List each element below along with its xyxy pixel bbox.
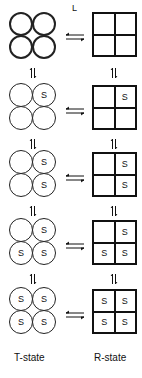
r-subunit-square: S xyxy=(115,312,136,333)
r-subunit-square xyxy=(94,175,115,196)
r-subunit-square: S xyxy=(115,175,136,196)
t-state-tetramer: SS xyxy=(9,150,57,198)
t-subunit-circle xyxy=(32,12,56,36)
r-subunit-square xyxy=(94,87,115,108)
t-subunit-circle: S xyxy=(9,310,33,334)
r-subunit-square xyxy=(115,108,136,129)
t-state-label: T-state xyxy=(14,352,45,363)
t-subunit-circle: S xyxy=(32,83,56,107)
r-subunit-square: S xyxy=(115,243,136,264)
t-state-tetramer: S xyxy=(9,83,57,131)
t-subunit-circle: S xyxy=(9,241,33,265)
r-state-tetramer: SS xyxy=(92,152,137,197)
r-subunit-square xyxy=(94,108,115,129)
r-subunit-square: S xyxy=(115,87,136,108)
vertical-equilibrium-arrows-icon xyxy=(110,136,118,148)
t-subunit-circle xyxy=(9,173,33,197)
equilibrium-row: SSSSSS xyxy=(0,218,142,268)
r-subunit-square: S xyxy=(115,291,136,312)
r-subunit-square xyxy=(94,14,115,35)
equilibrium-arrows-icon xyxy=(64,306,86,316)
equilibrium-row: SS xyxy=(0,83,142,133)
t-subunit-circle xyxy=(9,106,33,130)
r-subunit-square: S xyxy=(115,222,136,243)
t-subunit-circle: S xyxy=(32,173,56,197)
r-state-tetramer: S xyxy=(92,85,137,130)
vertical-equilibrium-arrows-icon xyxy=(29,271,37,283)
r-subunit-square xyxy=(115,35,136,56)
vertical-equilibrium-arrows-icon xyxy=(29,65,37,77)
equilibrium-row: SSSSSSSS xyxy=(0,287,142,337)
r-subunit-square xyxy=(94,154,115,175)
r-subunit-square: S xyxy=(94,291,115,312)
t-subunit-circle xyxy=(9,35,33,59)
equilibrium-row: SSSS xyxy=(0,150,142,200)
equilibrium-arrows-icon xyxy=(64,28,86,38)
t-subunit-circle xyxy=(9,12,33,36)
t-subunit-circle xyxy=(9,218,33,242)
r-subunit-square: S xyxy=(94,312,115,333)
vertical-equilibrium-arrows-icon xyxy=(110,271,118,283)
vertical-equilibrium-arrows-icon xyxy=(110,65,118,77)
r-subunit-square: S xyxy=(115,154,136,175)
r-state-tetramer: SSSS xyxy=(92,289,137,334)
equilibrium-arrows-icon xyxy=(64,169,86,179)
t-subunit-circle: S xyxy=(32,241,56,265)
vertical-equilibrium-arrows-icon xyxy=(29,136,37,148)
r-subunit-square xyxy=(115,14,136,35)
r-state-tetramer xyxy=(92,12,137,57)
vertical-equilibrium-arrows-icon xyxy=(110,203,118,215)
t-state-tetramer: SSSS xyxy=(9,287,57,335)
t-subunit-circle: S xyxy=(9,287,33,311)
equilibrium-arrows-icon xyxy=(64,102,86,112)
ligand-label: L xyxy=(72,3,77,13)
r-subunit-square xyxy=(94,35,115,56)
t-subunit-circle: S xyxy=(32,287,56,311)
r-subunit-square xyxy=(94,222,115,243)
vertical-equilibrium-arrows-icon xyxy=(29,203,37,215)
t-subunit-circle: S xyxy=(32,218,56,242)
r-state-tetramer: SSS xyxy=(92,220,137,265)
equilibrium-row xyxy=(0,12,142,62)
t-subunit-circle xyxy=(32,106,56,130)
r-subunit-square: S xyxy=(94,243,115,264)
t-state-tetramer xyxy=(9,12,57,60)
t-subunit-circle xyxy=(9,83,33,107)
t-subunit-circle xyxy=(9,150,33,174)
t-subunit-circle xyxy=(32,35,56,59)
t-subunit-circle: S xyxy=(32,310,56,334)
r-state-label: R-state xyxy=(94,352,126,363)
t-subunit-circle: S xyxy=(32,150,56,174)
equilibrium-arrows-icon xyxy=(64,237,86,247)
t-state-tetramer: SSS xyxy=(9,218,57,266)
